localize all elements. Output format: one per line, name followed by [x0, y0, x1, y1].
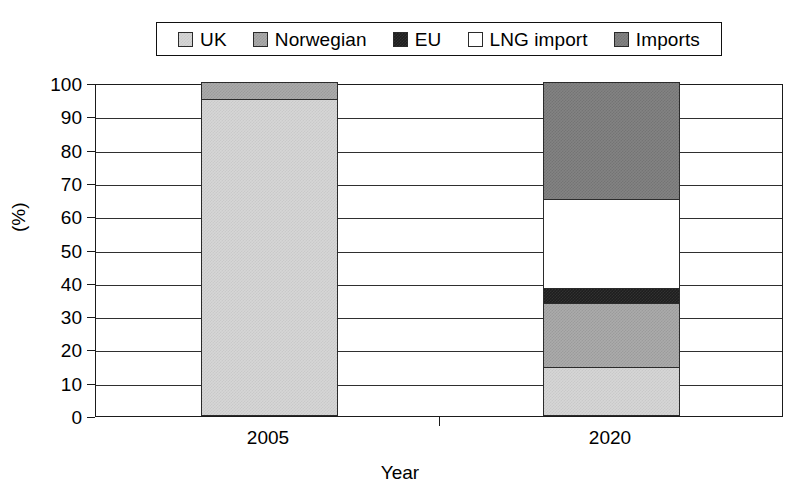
- legend-item-eu[interactable]: EU: [393, 30, 442, 49]
- y-axis-tick-label: 60: [22, 208, 82, 227]
- legend-item-uk[interactable]: UK: [178, 30, 227, 49]
- y-axis-tick-mark: [87, 151, 95, 152]
- bar-segment-2005-norwegian[interactable]: [201, 82, 338, 100]
- y-axis-tick-mark: [87, 317, 95, 318]
- y-axis-tick-label: 0: [22, 408, 82, 427]
- y-axis-tick-mark: [87, 117, 95, 118]
- y-axis-tick-mark: [87, 184, 95, 185]
- legend-label-lng-import: LNG import: [490, 30, 588, 49]
- legend-item-imports[interactable]: Imports: [614, 30, 700, 49]
- bar-2005[interactable]: [201, 83, 338, 416]
- y-axis-tick-label: 30: [22, 308, 82, 327]
- bar-2020[interactable]: [543, 83, 680, 416]
- swatch-imports-icon: [614, 32, 629, 47]
- y-axis-tick-mark: [87, 251, 95, 252]
- bar-segment-2020-uk[interactable]: [543, 366, 680, 416]
- y-axis-tick-mark: [87, 217, 95, 218]
- y-axis-tick-mark: [87, 284, 95, 285]
- y-axis-tick-label: 80: [22, 142, 82, 161]
- bar-segment-2020-imports[interactable]: [543, 82, 680, 200]
- y-axis-tick-label: 10: [22, 375, 82, 394]
- chart-figure: UK Norwegian EU LNG import Imports (%) 0…: [0, 0, 800, 495]
- legend-label-norwegian: Norwegian: [275, 30, 367, 49]
- y-axis-tick-label: 100: [22, 75, 82, 94]
- plot-area: [95, 84, 783, 417]
- x-axis-label-2005: 2005: [188, 428, 348, 447]
- swatch-eu-icon: [393, 32, 408, 47]
- swatch-uk-icon: [178, 32, 193, 47]
- y-axis-tick-label: 20: [22, 341, 82, 360]
- y-axis-tick-label: 50: [22, 242, 82, 261]
- legend-item-norwegian[interactable]: Norwegian: [253, 30, 367, 49]
- swatch-lng-import-icon: [468, 32, 483, 47]
- bar-segment-2020-eu[interactable]: [543, 288, 680, 304]
- x-axis-title: Year: [0, 462, 800, 484]
- y-axis-tick-mark: [87, 417, 95, 418]
- bar-segment-2020-norwegian[interactable]: [543, 303, 680, 368]
- legend-item-lng-import[interactable]: LNG import: [468, 30, 588, 49]
- chart-legend: UK Norwegian EU LNG import Imports: [156, 22, 722, 56]
- y-axis-tick-label: 70: [22, 175, 82, 194]
- legend-label-uk: UK: [200, 30, 227, 49]
- legend-label-imports: Imports: [636, 30, 700, 49]
- x-axis-tick-mark: [439, 417, 440, 426]
- swatch-norwegian-icon: [253, 32, 268, 47]
- x-axis-label-2020: 2020: [530, 428, 690, 447]
- y-axis-tick-mark: [87, 384, 95, 385]
- y-axis-tick-label: 40: [22, 275, 82, 294]
- bar-segment-2020-lng-import[interactable]: [543, 198, 680, 289]
- y-axis-tick-mark: [87, 350, 95, 351]
- legend-label-eu: EU: [415, 30, 442, 49]
- y-axis-tick-label: 90: [22, 108, 82, 127]
- y-axis-tick-mark: [87, 84, 95, 85]
- bar-segment-2005-uk[interactable]: [201, 98, 338, 416]
